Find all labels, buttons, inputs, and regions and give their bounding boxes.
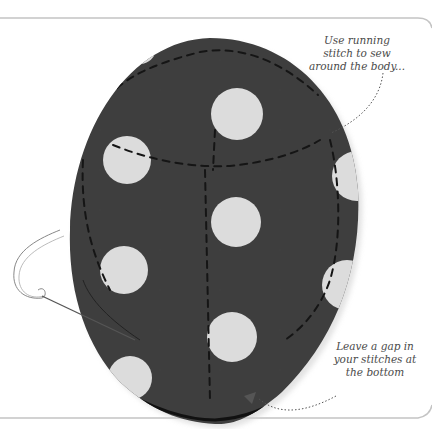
annotation-running-stitch: Use running stitch to sew around the bod… [305, 34, 409, 73]
annotation-leave-gap: Leave a gap in your stitches at the bott… [325, 340, 425, 379]
annotation-line: the bottom [325, 366, 425, 379]
annotation-line: stitch to sew [305, 47, 409, 60]
annotation-line: your stitches at [325, 353, 425, 366]
annotation-line: Leave a gap in [325, 340, 425, 353]
annotation-line: around the body... [305, 60, 409, 73]
annotation-line: Use running [305, 34, 409, 47]
